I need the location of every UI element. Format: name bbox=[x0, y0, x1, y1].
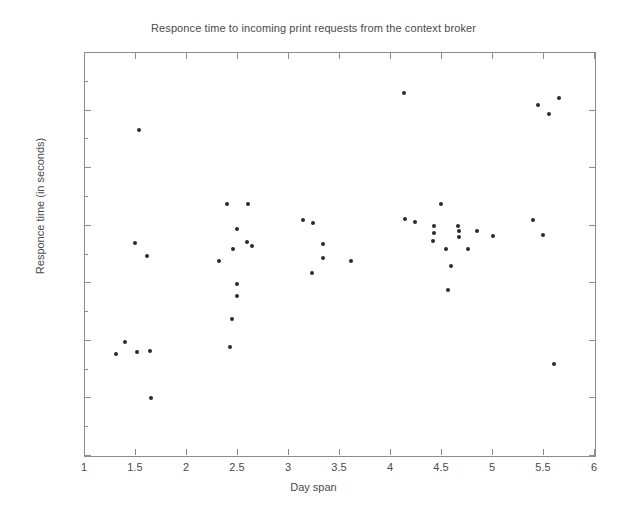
data-point bbox=[349, 259, 353, 263]
data-point bbox=[439, 202, 443, 206]
y-tick-mark-minor bbox=[85, 81, 88, 82]
x-tick-mark bbox=[84, 449, 85, 455]
x-tick-label: 5.5 bbox=[535, 461, 550, 473]
y-tick-mark-right bbox=[589, 397, 595, 398]
data-point bbox=[246, 202, 250, 206]
data-point bbox=[403, 217, 407, 221]
x-tick-mark bbox=[492, 449, 493, 455]
data-point bbox=[245, 240, 249, 244]
data-point bbox=[225, 202, 229, 206]
y-tick-mark-right bbox=[589, 282, 595, 283]
chart-title: Responce time to incoming print requests… bbox=[0, 22, 627, 34]
chart-figure: Responce time to incoming print requests… bbox=[0, 0, 627, 516]
data-point bbox=[457, 229, 461, 233]
y-tick-mark-right bbox=[589, 225, 595, 226]
x-tick-label: 5 bbox=[489, 461, 495, 473]
x-tick-mark-top bbox=[441, 53, 442, 59]
data-point bbox=[217, 259, 221, 263]
y-tick-mark-minor bbox=[85, 138, 88, 139]
data-point bbox=[235, 227, 239, 231]
data-point bbox=[230, 317, 234, 321]
x-tick-mark-top bbox=[594, 53, 595, 59]
y-tick-mark bbox=[85, 340, 91, 341]
y-tick-mark-right bbox=[589, 455, 595, 456]
data-point bbox=[547, 112, 551, 116]
data-point bbox=[301, 218, 305, 222]
x-tick-mark bbox=[390, 449, 391, 455]
data-point bbox=[231, 247, 235, 251]
x-tick-mark bbox=[441, 449, 442, 455]
x-tick-label: 3 bbox=[285, 461, 291, 473]
data-point bbox=[311, 221, 315, 225]
y-tick-mark bbox=[85, 282, 91, 283]
x-tick-mark bbox=[288, 449, 289, 455]
x-tick-mark bbox=[339, 449, 340, 455]
y-tick-mark-minor bbox=[85, 254, 88, 255]
data-point bbox=[235, 282, 239, 286]
data-point bbox=[431, 239, 435, 243]
x-tick-mark bbox=[594, 449, 595, 455]
data-point bbox=[228, 345, 232, 349]
x-tick-mark-top bbox=[84, 53, 85, 59]
x-tick-mark bbox=[186, 449, 187, 455]
data-point bbox=[541, 233, 545, 237]
x-tick-label: 2.5 bbox=[229, 461, 244, 473]
x-tick-mark bbox=[237, 449, 238, 455]
y-tick-mark bbox=[85, 167, 91, 168]
data-point bbox=[536, 103, 540, 107]
data-point bbox=[148, 349, 152, 353]
x-tick-mark-top bbox=[135, 53, 136, 59]
x-tick-label: 3.5 bbox=[331, 461, 346, 473]
y-tick-mark-minor bbox=[85, 196, 88, 197]
data-point bbox=[310, 271, 314, 275]
data-point bbox=[321, 256, 325, 260]
data-point bbox=[432, 224, 436, 228]
y-tick-mark-right bbox=[589, 167, 595, 168]
x-tick-mark-top bbox=[288, 53, 289, 59]
data-point bbox=[466, 247, 470, 251]
data-point bbox=[137, 128, 141, 132]
x-tick-label: 4 bbox=[387, 461, 393, 473]
data-point bbox=[531, 218, 535, 222]
y-tick-mark bbox=[85, 397, 91, 398]
data-point bbox=[456, 224, 460, 228]
y-tick-mark-minor bbox=[85, 369, 88, 370]
x-axis-label: Day span bbox=[0, 481, 627, 493]
x-tick-label: 2 bbox=[183, 461, 189, 473]
data-point bbox=[149, 396, 153, 400]
y-tick-mark bbox=[85, 455, 91, 456]
data-point bbox=[321, 242, 325, 246]
y-tick-mark bbox=[85, 110, 91, 111]
data-point bbox=[123, 340, 127, 344]
y-tick-mark-minor bbox=[85, 426, 88, 427]
data-point bbox=[135, 350, 139, 354]
data-point bbox=[552, 362, 556, 366]
y-tick-mark-right bbox=[589, 340, 595, 341]
x-tick-mark-top bbox=[339, 53, 340, 59]
plot-area bbox=[84, 52, 596, 457]
data-point bbox=[432, 231, 436, 235]
x-tick-label: 6 bbox=[591, 461, 597, 473]
y-axis-label: Responce time (in seconds) bbox=[34, 106, 46, 306]
data-point bbox=[557, 96, 561, 100]
x-tick-label: 4.5 bbox=[433, 461, 448, 473]
data-point bbox=[133, 241, 137, 245]
data-point bbox=[413, 220, 417, 224]
y-tick-mark-minor bbox=[85, 311, 88, 312]
y-tick-mark-right bbox=[589, 110, 595, 111]
x-tick-mark-top bbox=[543, 53, 544, 59]
x-tick-mark-top bbox=[390, 53, 391, 59]
x-tick-label: 1 bbox=[81, 461, 87, 473]
data-point bbox=[457, 235, 461, 239]
data-point bbox=[145, 254, 149, 258]
data-point bbox=[444, 247, 448, 251]
x-tick-mark-top bbox=[237, 53, 238, 59]
data-point bbox=[449, 264, 453, 268]
data-point bbox=[491, 234, 495, 238]
y-tick-mark bbox=[85, 225, 91, 226]
x-tick-mark-top bbox=[492, 53, 493, 59]
data-point bbox=[250, 244, 254, 248]
data-point bbox=[402, 91, 406, 95]
data-point bbox=[475, 229, 479, 233]
x-tick-mark bbox=[543, 449, 544, 455]
